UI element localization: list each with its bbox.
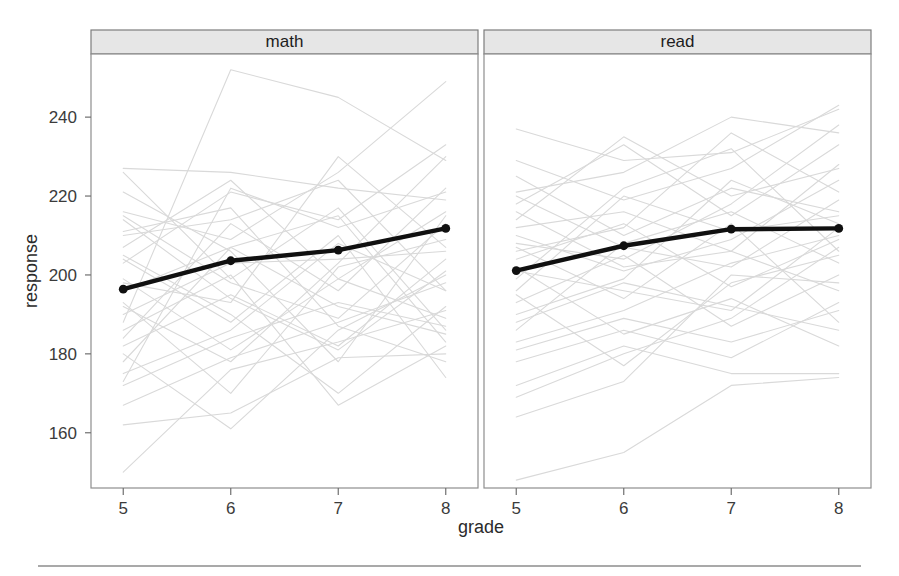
x-tick-label: 8 bbox=[834, 499, 843, 518]
x-tick-label: 5 bbox=[512, 499, 521, 518]
panel-frame-math bbox=[91, 54, 478, 488]
mean-data-point bbox=[834, 224, 843, 233]
panel-strips: math read bbox=[91, 30, 871, 54]
x-tick-label: 6 bbox=[619, 499, 628, 518]
mean-data-point bbox=[512, 266, 521, 275]
x-tick-label: 7 bbox=[334, 499, 343, 518]
strip-label-read: read bbox=[660, 32, 694, 51]
y-tick-label: 160 bbox=[49, 424, 77, 443]
y-tick-label: 200 bbox=[49, 266, 77, 285]
y-tick-label: 180 bbox=[49, 345, 77, 364]
x-tick-label: 8 bbox=[441, 499, 450, 518]
y-axis-title: response bbox=[21, 234, 41, 308]
mean-data-point bbox=[119, 285, 128, 294]
x-axis-math: 5678 bbox=[119, 488, 451, 518]
x-axis-title: grade bbox=[458, 517, 504, 537]
mean-data-point bbox=[441, 224, 450, 233]
y-tick-label: 220 bbox=[49, 187, 77, 206]
mean-data-point bbox=[619, 241, 628, 250]
trellis-chart-figure: math read 160180200220240 5678 5678 grad… bbox=[0, 0, 899, 576]
x-tick-label: 6 bbox=[226, 499, 235, 518]
chart-canvas: math read 160180200220240 5678 5678 grad… bbox=[0, 0, 899, 576]
mean-data-point bbox=[727, 225, 736, 234]
y-axis: 160180200220240 bbox=[49, 108, 91, 443]
x-tick-label: 5 bbox=[119, 499, 128, 518]
mean-data-point bbox=[334, 246, 343, 255]
x-tick-label: 7 bbox=[727, 499, 736, 518]
mean-data-point bbox=[226, 256, 235, 265]
x-axis-read: 5678 bbox=[512, 488, 844, 518]
strip-label-math: math bbox=[266, 32, 304, 51]
y-tick-label: 240 bbox=[49, 108, 77, 127]
